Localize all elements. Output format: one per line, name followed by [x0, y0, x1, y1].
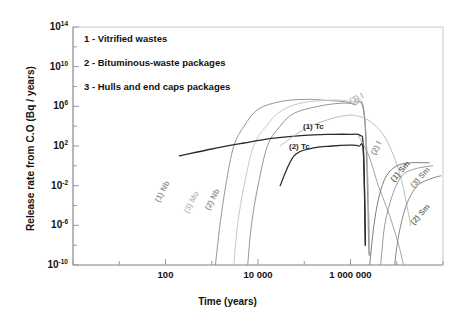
- legend-item-3: 3 - Hulls and end caps packages: [84, 81, 230, 92]
- y-tick-label: 10-10: [28, 259, 68, 270]
- chart-legend: 1 - Vitrified wastes 2 - Bituminous-wast…: [84, 33, 230, 105]
- x-tick-label: 1 000 000: [329, 269, 371, 280]
- x-tick-label: 100: [158, 269, 174, 280]
- y-tick-label: 106: [28, 100, 68, 111]
- y-tick-label: 102: [28, 140, 68, 151]
- y-tick-label: 1014: [28, 21, 68, 32]
- legend-item-2: 2 - Bituminous-waste packages: [84, 57, 230, 68]
- y-tick-label: 10-2: [28, 180, 68, 191]
- curve-label: (2) Tc: [289, 142, 310, 151]
- y-tick-label: 10-6: [28, 219, 68, 230]
- curve-label: (1) Tc: [303, 122, 324, 131]
- legend-item-1: 1 - Vitrified wastes: [84, 33, 230, 44]
- chart-figure: Release rate from C.O (Bq / years) Time …: [0, 0, 455, 326]
- y-tick-label: 1010: [28, 61, 68, 72]
- x-tick-label: 10 000: [243, 269, 272, 280]
